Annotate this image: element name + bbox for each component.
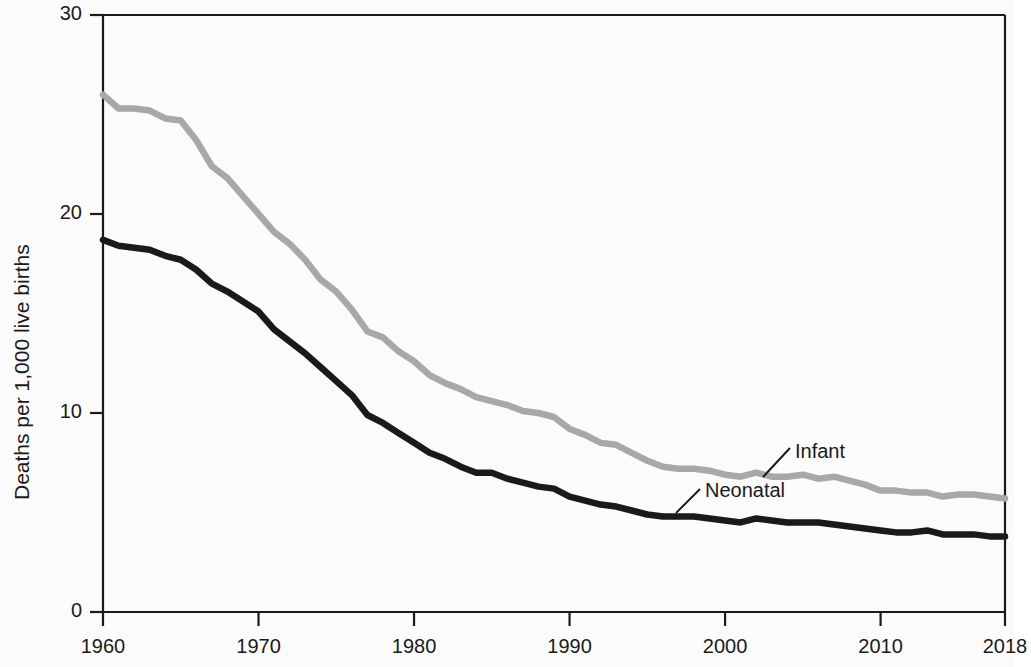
leader-line-neonatal: [676, 489, 700, 513]
y-tick-label: 0: [20, 599, 82, 622]
x-tick-label: 1970: [204, 635, 314, 658]
leader-line-infant: [763, 448, 790, 477]
x-tick-label: 2018: [950, 635, 1031, 658]
x-tick-label: 1980: [359, 635, 469, 658]
series-label-infant: Infant: [795, 440, 845, 463]
series-line-neonatal: [103, 240, 1005, 537]
x-axis-ticks: [103, 612, 1005, 626]
series-label-neonatal: Neonatal: [705, 479, 785, 502]
y-tick-label: 10: [20, 400, 82, 423]
y-tick-label: 20: [20, 201, 82, 224]
x-tick-label: 2010: [826, 635, 936, 658]
y-axis-title: Deaths per 1,000 live births: [10, 244, 34, 500]
x-tick-label: 1960: [48, 635, 158, 658]
x-tick-label: 1990: [515, 635, 625, 658]
x-tick-label: 2000: [670, 635, 780, 658]
y-axis-ticks: [90, 15, 103, 612]
y-tick-label: 30: [20, 2, 82, 25]
